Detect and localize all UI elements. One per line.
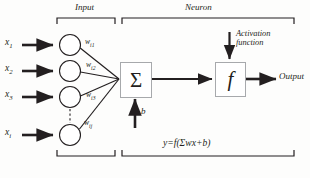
neural-network-diagram: Input Neuron x1 x2 x3 xi wi1 wi2 wi3 wij… [0, 0, 310, 178]
input-node-i [60, 125, 81, 146]
input-arrows [22, 45, 53, 135]
input-label-x2: x2 [5, 64, 13, 75]
input-label-xi: xi [5, 128, 11, 139]
weight-label-wi1: wi1 [85, 38, 94, 48]
input-node-2 [60, 61, 81, 82]
activation-function-label-line2: function [236, 39, 270, 48]
diagram-canvas [0, 0, 310, 178]
input-node-3 [60, 87, 81, 108]
output-label: Output [279, 72, 304, 81]
input-node-1 [60, 35, 81, 56]
weight-label-wij: wij [84, 119, 92, 129]
input-bracket-bottom [57, 150, 115, 156]
section-label-neuron: Neuron [185, 3, 212, 12]
formula-bracket-bottom [122, 150, 294, 156]
input-nodes [60, 35, 81, 146]
input-bracket-top [57, 18, 115, 24]
activation-function-box: f [215, 62, 246, 97]
section-label-input: Input [75, 3, 94, 12]
neuron-bracket-top [122, 18, 294, 24]
weight-label-wi3: wi3 [86, 91, 95, 101]
input-label-x3: x3 [5, 90, 13, 101]
activation-function-label: Activation function [236, 30, 270, 48]
weight-label-wi2: wi2 [86, 61, 95, 71]
input-label-x1: x1 [5, 38, 13, 49]
weight-line-2 [80, 72, 119, 79]
bias-label: b [141, 107, 146, 116]
summation-box: Σ [120, 62, 152, 98]
formula-label: y=f(Σwx+b) [163, 138, 210, 148]
